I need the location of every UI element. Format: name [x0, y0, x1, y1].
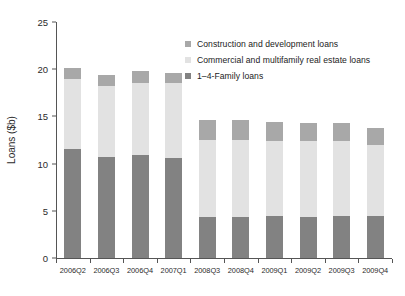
- legend-item-label: 1–4-Family loans: [197, 71, 263, 81]
- y-axis-tick: 25: [0, 17, 56, 28]
- y-axis-tick-label: 20: [37, 64, 52, 75]
- bar-segment: [199, 120, 216, 140]
- x-axis-tick-label: 2008Q3: [194, 266, 220, 275]
- legend-swatch-icon: [185, 41, 191, 47]
- bar-segment: [266, 216, 283, 258]
- bar-segment: [266, 141, 283, 217]
- y-axis-tick: 0: [0, 253, 56, 264]
- legend-item-label: Commercial and multifamily real estate l…: [197, 55, 370, 65]
- bar-segment: [199, 140, 216, 217]
- bar-segment: [98, 157, 115, 258]
- bar-segment: [300, 123, 317, 141]
- bar-segment: [98, 86, 115, 157]
- x-axis-tick-mark: [56, 259, 57, 263]
- bar-segment: [232, 140, 249, 217]
- bar-segment: [64, 68, 81, 78]
- bar-segment: [64, 149, 81, 258]
- bar-segment: [300, 217, 317, 258]
- x-axis-tick-mark: [392, 259, 393, 263]
- legend-swatch-icon: [185, 57, 191, 63]
- stacked-bar-chart: Loans ($b) 0510152025 2006Q22006Q32006Q4…: [0, 0, 405, 296]
- y-axis-tick-mark: [52, 22, 56, 23]
- y-axis-tick-mark: [52, 163, 56, 164]
- x-axis-tick-mark: [258, 259, 259, 263]
- x-axis-tick-label: 2006Q2: [60, 266, 86, 275]
- y-axis-tick-label: 25: [37, 17, 52, 28]
- bar-segment: [232, 120, 249, 140]
- y-axis-tick: 15: [0, 111, 56, 122]
- x-axis-tick-label: 2009Q4: [362, 266, 388, 275]
- x-axis-tick-mark: [90, 259, 91, 263]
- legend-swatch-icon: [185, 73, 191, 79]
- bar-segment: [333, 141, 350, 217]
- y-axis-tick-mark: [52, 210, 56, 211]
- bar-segment: [199, 217, 216, 258]
- bar-segment: [132, 83, 149, 155]
- y-axis-tick-label: 0: [43, 253, 52, 264]
- bar-segment: [300, 141, 317, 217]
- y-axis-tick-label: 10: [37, 158, 52, 169]
- bar-stack: [132, 22, 149, 258]
- y-axis-tick: 5: [0, 205, 56, 216]
- legend-item[interactable]: 1–4-Family loans: [185, 70, 370, 81]
- bar-stack: [64, 22, 81, 258]
- bar-stack: [165, 22, 182, 258]
- chart-legend: Construction and development loansCommer…: [185, 38, 370, 81]
- x-axis-tick-label: 2009Q3: [329, 266, 355, 275]
- bar-segment: [98, 75, 115, 86]
- y-axis-title: Loans ($b): [2, 22, 20, 258]
- bar-stack: [98, 22, 115, 258]
- x-axis-tick-mark: [358, 259, 359, 263]
- y-axis-tick-label: 5: [43, 205, 52, 216]
- bar-segment: [266, 122, 283, 141]
- y-axis-tick: 20: [0, 64, 56, 75]
- legend-item-label: Construction and development loans: [197, 39, 338, 49]
- x-axis-tick-mark: [291, 259, 292, 263]
- bar-segment: [367, 128, 384, 145]
- x-axis-tick-label: 2009Q2: [295, 266, 321, 275]
- bar-segment: [64, 79, 81, 150]
- y-axis-tick: 10: [0, 158, 56, 169]
- x-axis-tick-mark: [157, 259, 158, 263]
- x-axis-tick-mark: [123, 259, 124, 263]
- bar-segment: [367, 216, 384, 258]
- x-axis-tick-label: 2008Q4: [228, 266, 254, 275]
- bar-segment: [165, 73, 182, 83]
- y-axis-title-label: Loans ($b): [6, 116, 17, 164]
- x-axis-tick-label: 2006Q4: [127, 266, 153, 275]
- bar-segment: [333, 216, 350, 258]
- bar-segment: [165, 158, 182, 258]
- x-axis-tick-mark: [224, 259, 225, 263]
- legend-item[interactable]: Commercial and multifamily real estate l…: [185, 54, 370, 65]
- x-axis-tick-label: 2006Q3: [93, 266, 119, 275]
- bar-segment: [232, 217, 249, 258]
- bar-segment: [132, 155, 149, 258]
- y-axis-tick-mark: [52, 116, 56, 117]
- bar-segment: [132, 71, 149, 83]
- bar-segment: [333, 123, 350, 141]
- bar-segment: [367, 145, 384, 217]
- bar-segment: [165, 83, 182, 158]
- y-axis-tick-mark: [52, 69, 56, 70]
- y-axis-tick-label: 15: [37, 111, 52, 122]
- x-axis-tick-label: 2007Q1: [161, 266, 187, 275]
- x-axis-tick-label: 2009Q1: [261, 266, 287, 275]
- x-axis-tick-mark: [325, 259, 326, 263]
- x-axis-tick-mark: [190, 259, 191, 263]
- legend-item[interactable]: Construction and development loans: [185, 38, 370, 49]
